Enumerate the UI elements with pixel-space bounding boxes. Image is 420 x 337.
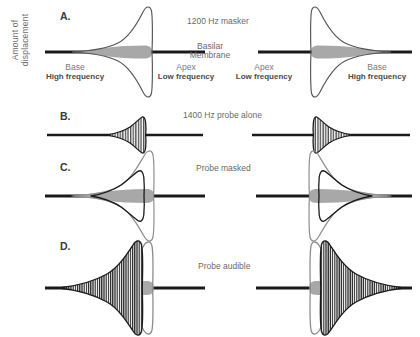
panel-c-title: Probe masked [196,163,251,173]
label-base-left: Base [65,62,84,72]
panel-a-masker-right [311,7,391,97]
label-low-frequency-left: Low frequency [150,72,222,81]
panel-a-masker-left [72,7,152,97]
panel-a-left-inner-label: Apex Low frequency [150,62,222,81]
panel-d-probe-right [321,241,404,335]
panel-a-right-end-label: Base High frequency [340,62,414,81]
panel-c-masker-right [309,151,391,241]
panel-letter-b: B. [60,110,71,122]
panel-letter-c: C. [60,161,71,173]
label-apex-right: Apex [254,62,273,72]
panel-letter-a: A. [60,10,71,22]
panel-d-title: Probe audible [198,261,250,271]
panel-c-masker-left [72,151,154,241]
basilar-membrane-label: Basilar Membrane [185,42,235,60]
panel-b-title: 1400 Hz probe alone [183,110,262,120]
basilar-membrane-line2: Membrane [190,50,231,60]
label-low-frequency-right: Low frequency [228,72,300,81]
panel-a-title: 1200 Hz masker [187,16,249,26]
label-high-frequency-left: High frequency [40,72,110,81]
panel-d-probe-left [59,241,142,335]
panel-a-left-end-label: Base High frequency [40,62,110,81]
panel-b-graphic [47,117,410,153]
label-high-frequency-right: High frequency [340,72,414,81]
panel-letter-d: D. [60,240,71,252]
panel-b-probe-left [107,117,146,153]
label-apex-left: Apex [176,62,195,72]
panel-a-right-inner-label: Apex Low frequency [228,62,300,81]
figure-root: Amount of displacement [0,0,420,337]
panel-b-probe-right [313,117,352,153]
panel-d-graphic [45,241,412,335]
label-base-right: Base [367,62,386,72]
